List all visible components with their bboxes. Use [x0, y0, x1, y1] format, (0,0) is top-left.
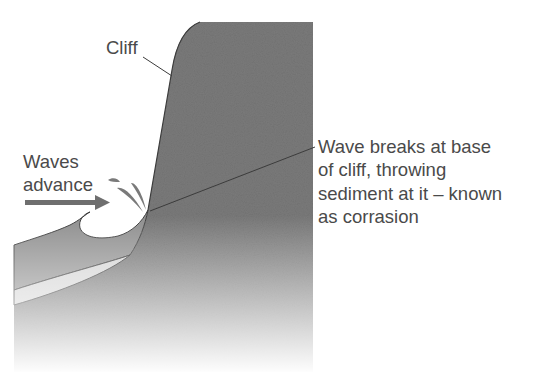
- corrasion-diagram: Cliff Waves advance Wave breaks at base …: [0, 0, 543, 390]
- bottom-fade: [10, 22, 320, 374]
- waves-label-line2: advance: [23, 174, 93, 195]
- corrasion-label-line2: of cliff, throwing: [318, 159, 446, 180]
- corrasion-label-line3: sediment at it – known: [318, 183, 502, 204]
- cliff-label: Cliff: [106, 37, 138, 58]
- corrasion-label-line1: Wave breaks at base: [318, 136, 491, 157]
- waves-label-line1: Waves: [23, 151, 79, 172]
- corrasion-label-line4: as corrasion: [318, 206, 419, 227]
